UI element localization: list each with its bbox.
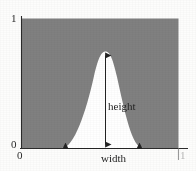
x-axis-max-label: 1 <box>180 150 186 161</box>
parabola-figure-svg <box>0 0 196 171</box>
width-annotation-label: width <box>101 153 126 164</box>
y-axis-max-label: 1 <box>11 13 17 24</box>
figure-container: 1 0 0 1 height width <box>0 0 196 171</box>
y-axis-min-label: 0 <box>11 139 17 150</box>
height-annotation-label: height <box>108 101 136 112</box>
x-axis-min-label: 0 <box>17 150 23 161</box>
